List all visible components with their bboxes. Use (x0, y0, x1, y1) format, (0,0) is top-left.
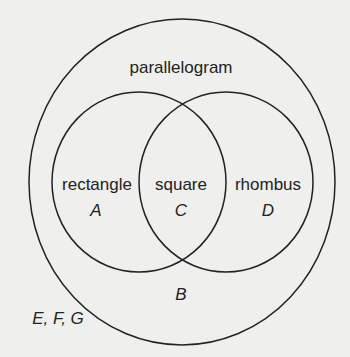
region-d-label: D (262, 201, 274, 221)
rhombus-label: rhombus (235, 175, 301, 195)
region-a-label: A (90, 201, 101, 221)
region-c-label: C (175, 201, 187, 221)
region-b-label: B (175, 285, 186, 305)
square-label: square (155, 175, 207, 195)
rectangle-label: rectangle (62, 175, 132, 195)
parallelogram-label: parallelogram (130, 58, 233, 78)
outside-elements-label: E, F, G (32, 309, 84, 329)
